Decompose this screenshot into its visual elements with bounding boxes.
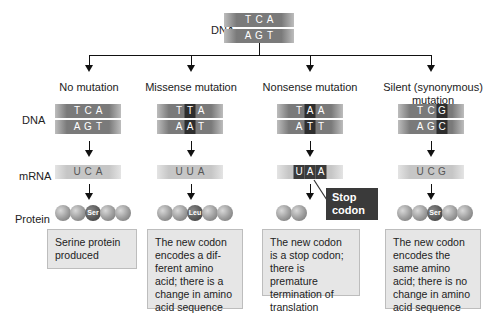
arrow-down-icon xyxy=(187,65,195,72)
protein-chain: Ser xyxy=(55,205,130,221)
base: C xyxy=(83,104,94,118)
dna-coding-strand: A G T xyxy=(55,120,121,134)
base: T xyxy=(243,13,254,27)
description-box: Serine protein produced xyxy=(47,229,137,269)
amino-acid-bead xyxy=(100,205,116,221)
base: T xyxy=(174,104,185,118)
base: C xyxy=(426,104,437,118)
amino-acid-bead xyxy=(115,205,131,221)
protein-chain-truncated xyxy=(276,205,306,221)
row-label-mrna: mRNA xyxy=(19,170,51,182)
description-box: The new codon is a stop codon; there is … xyxy=(262,229,360,296)
base: A xyxy=(94,104,105,118)
dna-template-strand: T C G xyxy=(398,104,464,118)
arrow-down-icon xyxy=(306,65,314,72)
base: A xyxy=(94,165,105,179)
base: G xyxy=(254,29,265,43)
base: U xyxy=(185,165,196,179)
amino-acid-bead xyxy=(157,205,173,221)
row-label-protein: Protein xyxy=(15,213,50,225)
amino-acid-bead xyxy=(412,205,428,221)
arrow-down-icon xyxy=(427,65,435,72)
base: T xyxy=(94,120,105,134)
base: A xyxy=(243,29,254,43)
amino-acid-bead xyxy=(397,205,413,221)
base: A xyxy=(294,120,305,134)
mrna-strand: U A A xyxy=(277,165,343,179)
base-stop: A xyxy=(316,165,327,179)
base: T xyxy=(415,104,426,118)
description-box: The new codon encodes the same amino aci… xyxy=(385,229,481,309)
base: T xyxy=(72,104,83,118)
base: T xyxy=(294,104,305,118)
row-label-dna: DNA xyxy=(22,114,45,126)
stop-codon-label: Stop codon xyxy=(326,188,378,220)
base: G xyxy=(426,120,437,134)
protein-chain: Leu xyxy=(157,205,232,221)
mrna-strand: U C G xyxy=(398,165,464,179)
base: A xyxy=(72,120,83,134)
arrow-down-icon xyxy=(85,150,93,157)
base: G xyxy=(437,165,448,179)
base: U xyxy=(72,165,83,179)
arrow-down-icon xyxy=(306,150,314,157)
base: A xyxy=(196,165,207,179)
dna-template-strand: T T A xyxy=(157,104,223,118)
base: A xyxy=(174,120,185,134)
connector-line xyxy=(259,43,260,55)
column-title-missense-mutation: Missense mutation xyxy=(141,81,241,93)
base: T xyxy=(316,120,327,134)
amino-acid-bead xyxy=(202,205,218,221)
protein-chain: Ser xyxy=(397,205,472,221)
mrna-strand: U C A xyxy=(55,165,121,179)
base-mutated: A xyxy=(305,104,316,118)
amino-acid-bead-serine: Ser xyxy=(427,205,443,221)
base: G xyxy=(83,120,94,134)
arrow-down-icon xyxy=(85,65,93,72)
amino-acid-bead xyxy=(217,205,233,221)
amino-acid-bead xyxy=(55,205,71,221)
base-mutated: T xyxy=(305,120,316,134)
column-title-nonsense-mutation: Nonsense mutation xyxy=(255,81,365,93)
base: U xyxy=(174,165,185,179)
dna-coding-strand: A A T xyxy=(157,120,223,134)
base: U xyxy=(415,165,426,179)
arrow-down-icon xyxy=(427,150,435,157)
base: A xyxy=(415,120,426,134)
dna-coding-strand: A G C xyxy=(398,120,464,134)
top-dna-template-strand: T C A xyxy=(224,13,294,27)
base-mutated: A xyxy=(185,120,196,134)
base-mutated: T xyxy=(185,104,196,118)
base: C xyxy=(426,165,437,179)
top-dna-coding-strand: A G T xyxy=(224,29,294,43)
amino-acid-bead xyxy=(457,205,473,221)
connector-line xyxy=(89,55,432,56)
base: A xyxy=(316,104,327,118)
arrow-down-icon xyxy=(85,193,93,200)
amino-acid-bead-serine: Ser xyxy=(85,205,101,221)
base-mutated: G xyxy=(437,104,448,118)
amino-acid-bead-leucine: Leu xyxy=(187,205,203,221)
base: A xyxy=(196,104,207,118)
base-stop: A xyxy=(305,165,316,179)
description-box: The new codon encodes a dif-ferent amino… xyxy=(147,229,243,309)
amino-acid-bead xyxy=(172,205,188,221)
base: T xyxy=(196,120,207,134)
amino-acid-bead xyxy=(442,205,458,221)
arrow-down-icon xyxy=(187,193,195,200)
base: C xyxy=(254,13,265,27)
amino-acid-bead xyxy=(291,205,307,221)
dna-template-strand: T C A xyxy=(55,104,121,118)
amino-acid-bead xyxy=(276,205,292,221)
arrow-down-icon xyxy=(306,193,314,200)
amino-acid-bead xyxy=(70,205,86,221)
base-stop: U xyxy=(294,165,305,179)
arrow-down-icon xyxy=(427,193,435,200)
dna-coding-strand: A T T xyxy=(277,120,343,134)
arrow-down-icon xyxy=(187,150,195,157)
mrna-strand: U U A xyxy=(157,165,223,179)
base: T xyxy=(265,29,276,43)
base-mutated: C xyxy=(437,120,448,134)
base: A xyxy=(265,13,276,27)
dna-template-strand: T A A xyxy=(277,104,343,118)
